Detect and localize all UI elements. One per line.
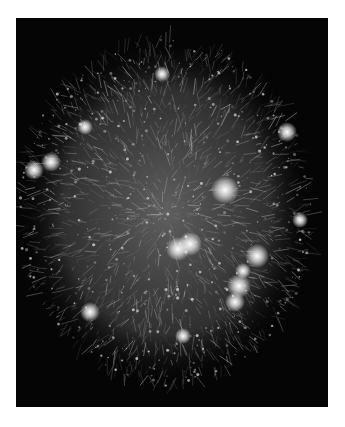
bright-node bbox=[77, 119, 93, 135]
bright-node bbox=[175, 328, 191, 344]
bright-node bbox=[24, 160, 44, 180]
bright-node bbox=[178, 232, 202, 256]
bright-node bbox=[41, 152, 61, 172]
network-graph bbox=[16, 18, 328, 407]
bright-node bbox=[225, 292, 245, 312]
bright-node bbox=[211, 176, 239, 204]
bright-node bbox=[292, 212, 308, 228]
network-visualization-image bbox=[16, 18, 328, 407]
bright-node bbox=[80, 302, 100, 322]
bright-node bbox=[235, 263, 251, 279]
bright-node bbox=[154, 66, 170, 82]
bright-node bbox=[277, 122, 297, 142]
bright-node bbox=[245, 244, 269, 268]
